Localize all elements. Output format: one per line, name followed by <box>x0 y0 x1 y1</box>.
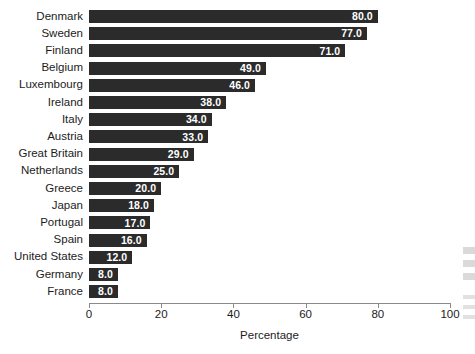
bar-value-label: 29.0 <box>168 149 194 160</box>
category-label: Austria <box>47 131 83 143</box>
bar: 71.0 <box>89 44 345 57</box>
bar: 80.0 <box>89 10 378 23</box>
bar: 33.0 <box>89 130 208 143</box>
category-label: United States <box>14 252 83 264</box>
category-label: Germany <box>36 269 83 281</box>
bar-row: Sweden77.0 <box>89 27 450 40</box>
bar-row: Japan18.0 <box>89 199 450 212</box>
bar-value-label: 20.0 <box>135 183 161 194</box>
bar: 77.0 <box>89 27 367 40</box>
category-label: Denmark <box>36 11 83 23</box>
bar-row: Germany8.0 <box>89 268 450 281</box>
bar-row: Portugal17.0 <box>89 216 450 229</box>
bar-value-label: 77.0 <box>341 28 367 39</box>
bar: 12.0 <box>89 251 132 264</box>
bar-value-label: 34.0 <box>186 114 212 125</box>
category-label: Ireland <box>48 97 83 109</box>
category-label: Italy <box>62 114 83 126</box>
bar: 8.0 <box>89 268 118 281</box>
category-label: Belgium <box>41 62 83 74</box>
bar-row: Spain16.0 <box>89 234 450 247</box>
bar-value-label: 71.0 <box>319 46 345 57</box>
bar-value-label: 16.0 <box>121 235 147 246</box>
bar: 29.0 <box>89 148 194 161</box>
bar-row: Netherlands25.0 <box>89 165 450 178</box>
bar-row: Great Britain29.0 <box>89 148 450 161</box>
bar: 18.0 <box>89 199 154 212</box>
x-axis-title: Percentage <box>89 330 450 342</box>
bar: 8.0 <box>89 285 118 298</box>
x-axis-line <box>89 303 450 304</box>
bar-row: Greece20.0 <box>89 182 450 195</box>
bar-row: Italy34.0 <box>89 113 450 126</box>
category-label: Netherlands <box>21 166 83 178</box>
bar-value-label: 17.0 <box>125 218 151 229</box>
category-label: Great Britain <box>18 148 83 160</box>
bar-row: United States12.0 <box>89 251 450 264</box>
bar-row: France8.0 <box>89 285 450 298</box>
bar-row: Luxembourg46.0 <box>89 79 450 92</box>
bar-chart: Denmark80.0Sweden77.0Finland71.0Belgium4… <box>0 0 475 354</box>
bar-value-label: 8.0 <box>98 269 118 280</box>
bar: 25.0 <box>89 165 179 178</box>
bar-value-label: 49.0 <box>240 63 266 74</box>
bar-row: Austria33.0 <box>89 130 450 143</box>
x-axis-tick-label: 60 <box>299 309 312 321</box>
category-label: Sweden <box>41 28 83 40</box>
bar-value-label: 25.0 <box>153 166 179 177</box>
bar: 46.0 <box>89 79 255 92</box>
bar-row: Finland71.0 <box>89 44 450 57</box>
bar-value-label: 18.0 <box>128 200 154 211</box>
bar-value-label: 12.0 <box>106 252 132 263</box>
category-label: Japan <box>52 200 83 212</box>
bar-row: Ireland38.0 <box>89 96 450 109</box>
bar: 17.0 <box>89 216 150 229</box>
x-axis-tick-label: 20 <box>155 309 168 321</box>
bar: 34.0 <box>89 113 212 126</box>
category-label: Portugal <box>40 217 83 229</box>
category-label: Luxembourg <box>19 80 83 92</box>
category-label: Finland <box>45 45 83 57</box>
bar: 38.0 <box>89 96 226 109</box>
bar: 16.0 <box>89 234 147 247</box>
category-label: Greece <box>45 183 83 195</box>
bar-value-label: 46.0 <box>229 80 255 91</box>
bar: 49.0 <box>89 62 266 75</box>
x-axis-tick-label: 100 <box>440 309 459 321</box>
x-axis-tick-label: 40 <box>227 309 240 321</box>
bar-row: Denmark80.0 <box>89 10 450 23</box>
x-axis-tick-label: 80 <box>371 309 384 321</box>
bar-value-label: 8.0 <box>98 286 118 297</box>
category-label: France <box>47 286 83 298</box>
bar-value-label: 33.0 <box>182 132 208 143</box>
bar-value-label: 80.0 <box>352 11 378 22</box>
category-label: Spain <box>54 234 83 246</box>
bar-value-label: 38.0 <box>200 97 226 108</box>
bar-row: Belgium49.0 <box>89 62 450 75</box>
bar: 20.0 <box>89 182 161 195</box>
page-edge-artifact <box>463 243 475 338</box>
x-axis-tick-label: 0 <box>86 309 92 321</box>
